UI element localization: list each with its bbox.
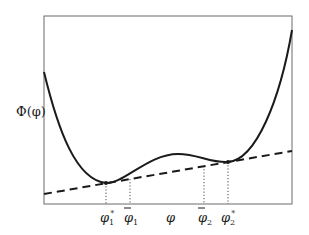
- y-axis-label: Φ(φ): [16, 104, 46, 119]
- label-phi2-bar: φ2: [198, 208, 212, 227]
- free-energy-diagram: Φ(φ) φ1* φ1 φ φ2 φ2*: [0, 0, 309, 235]
- label-phi1-bar: φ1: [124, 208, 138, 227]
- tangent-point-1: [104, 181, 108, 185]
- svg-text:φ2: φ2: [198, 210, 212, 227]
- label-phi1-star: φ1*: [100, 209, 114, 227]
- common-tangent-line: [44, 151, 292, 194]
- svg-text:φ1: φ1: [124, 210, 138, 227]
- tangent-point-2: [226, 160, 230, 164]
- label-phi2-star: φ2*: [221, 209, 235, 227]
- free-energy-curve: [44, 30, 292, 183]
- dotted-markers: [106, 162, 228, 204]
- x-axis-label: φ: [166, 210, 176, 225]
- plot-frame: [44, 16, 292, 204]
